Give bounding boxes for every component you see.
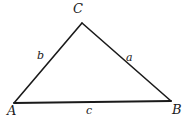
- vertex-label-c: C: [73, 2, 83, 15]
- vertex-label-b: B: [172, 103, 182, 116]
- side-label-b: b: [37, 50, 44, 61]
- triangle-figure: C A B b a c: [0, 0, 193, 126]
- vertex-label-a: A: [7, 104, 16, 117]
- triangle-side-b-line: [14, 23, 82, 103]
- side-label-a: a: [126, 52, 133, 63]
- side-label-c: c: [86, 105, 92, 116]
- triangle-side-c-line: [14, 101, 171, 103]
- triangle-svg: [0, 0, 193, 126]
